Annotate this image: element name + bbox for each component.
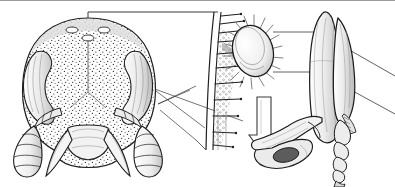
top-rule	[0, 0, 395, 1]
ant-head-frontal-view	[14, 18, 163, 177]
ocellus-right	[98, 27, 110, 33]
illustration-svg	[0, 0, 395, 187]
ocellus-left	[66, 27, 78, 33]
figure-canvas	[0, 0, 395, 187]
